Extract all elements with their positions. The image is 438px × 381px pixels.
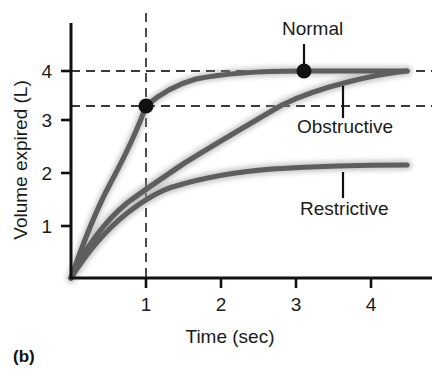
panel-label: (b) (13, 347, 35, 366)
y-tick-label-1: 1 (41, 216, 52, 237)
x-tick-label-3: 3 (291, 294, 302, 315)
y-tick-label-4: 4 (41, 61, 52, 82)
x-tick-labels: 1 2 3 4 (141, 294, 377, 315)
annotation-labels: Normal Obstructive Restrictive (282, 18, 393, 219)
y-tick-label-2: 2 (41, 163, 52, 184)
volume-time-chart: 4 3 2 1 1 2 3 4 Time (sec) Volume expire… (0, 0, 438, 381)
annotation-label-restrictive: Restrictive (300, 198, 389, 219)
x-tick-label-2: 2 (216, 294, 227, 315)
halo-restrictive (71, 165, 407, 278)
annotation-label-obstructive: Obstructive (297, 116, 393, 137)
x-axis-title: Time (sec) (185, 326, 274, 347)
marker-fev1-normal (139, 99, 154, 114)
x-tick-label-1: 1 (141, 294, 152, 315)
curves (71, 71, 407, 278)
y-axis-title: Volume expired (L) (10, 80, 31, 239)
annotation-label-normal: Normal (282, 18, 343, 39)
y-tick-labels: 4 3 2 1 (41, 61, 52, 237)
axes (61, 23, 432, 288)
x-tick-label-4: 4 (366, 294, 377, 315)
spirometry-figure: 4 3 2 1 1 2 3 4 Time (sec) Volume expire… (0, 0, 438, 381)
y-tick-label-3: 3 (41, 110, 52, 131)
